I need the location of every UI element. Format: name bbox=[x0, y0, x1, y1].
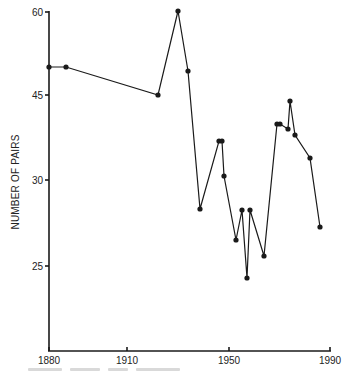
data-point bbox=[221, 173, 226, 178]
line-chart: 60453025 1880191019501990 NUMBER OF PAIR… bbox=[0, 0, 345, 372]
x-tick-label: 1880 bbox=[38, 355, 61, 366]
x-tick-label: 1950 bbox=[218, 355, 241, 366]
data-point bbox=[261, 253, 266, 258]
x-axis-ticks: 1880191019501990 bbox=[38, 347, 342, 366]
data-point bbox=[46, 64, 51, 69]
figure-caption-cropped bbox=[0, 366, 345, 372]
y-tick-label: 25 bbox=[32, 261, 44, 272]
y-axis-title: NUMBER OF PAIRS bbox=[10, 134, 21, 229]
data-point bbox=[63, 64, 68, 69]
data-point bbox=[233, 237, 238, 242]
data-point bbox=[175, 8, 180, 13]
data-point bbox=[185, 68, 190, 73]
data-point bbox=[219, 138, 224, 143]
x-tick-label: 1990 bbox=[319, 355, 342, 366]
x-tick-label: 1910 bbox=[116, 355, 139, 366]
data-point bbox=[197, 206, 202, 211]
caption-fragment bbox=[28, 368, 62, 371]
y-tick-label: 30 bbox=[32, 175, 44, 186]
caption-fragment bbox=[70, 368, 100, 371]
y-axis-ticks: 60453025 bbox=[32, 7, 49, 272]
data-point bbox=[292, 132, 297, 137]
y-tick-label: 45 bbox=[32, 90, 44, 101]
data-line bbox=[49, 11, 320, 278]
caption-fragment bbox=[108, 368, 128, 371]
data-point bbox=[287, 98, 292, 103]
caption-fragment bbox=[136, 368, 180, 371]
data-point bbox=[285, 126, 290, 131]
data-point bbox=[239, 207, 244, 212]
y-tick-label: 60 bbox=[32, 7, 44, 18]
data-point bbox=[247, 207, 252, 212]
data-point bbox=[277, 121, 282, 126]
data-point bbox=[155, 92, 160, 97]
data-point bbox=[307, 155, 312, 160]
data-point bbox=[317, 224, 322, 229]
data-point bbox=[244, 275, 249, 280]
